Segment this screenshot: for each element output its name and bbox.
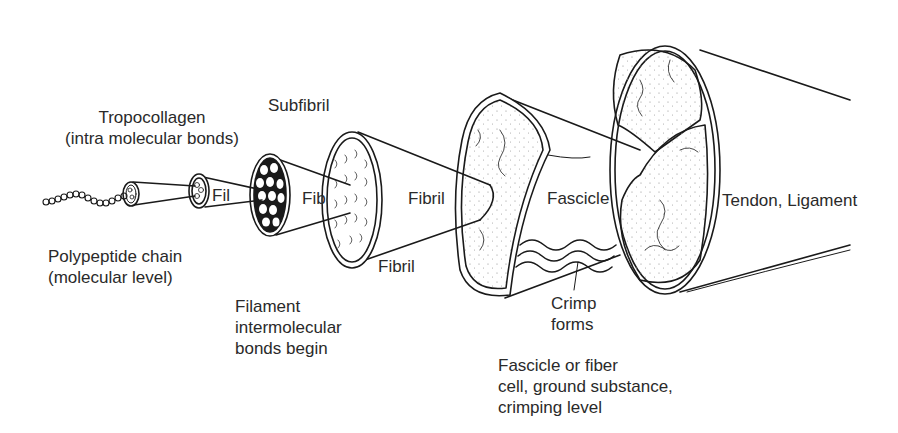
label-line: Filament: [235, 296, 342, 317]
polypeptide-chain-label: Polypeptide chain (molecular level): [48, 246, 182, 288]
tendon-shape: [610, 46, 850, 294]
label-line: Polypeptide chain: [48, 246, 182, 267]
collagen-hierarchy-diagram: [0, 0, 898, 433]
crimp-forms-label: Crimp forms: [551, 293, 596, 335]
label-line: intermolecular: [235, 317, 342, 338]
label-line: (molecular level): [48, 267, 182, 288]
label-line: crimping level: [498, 397, 673, 418]
label-line: Subfibril: [268, 95, 329, 116]
label-line: (intra molecular bonds): [52, 128, 252, 149]
label-line: bonds begin: [235, 338, 342, 359]
tropocollagen-shape: [123, 182, 195, 206]
fib-inline-label: Fib: [302, 188, 326, 209]
fascicle-label: Fascicle or fiber cell, ground substance…: [498, 355, 673, 418]
tropocollagen-label: Tropocollagen (intra molecular bonds): [52, 107, 252, 149]
label-line: Fibril: [378, 256, 415, 277]
label-line: Tropocollagen: [52, 107, 252, 128]
filament-label: Filament intermolecular bonds begin: [235, 296, 342, 359]
label-line: cell, ground substance,: [498, 376, 673, 397]
label-line: Fascicle or fiber: [498, 355, 673, 376]
subfibril-label: Subfibril: [268, 95, 329, 116]
polypeptide-chain-shape: [43, 191, 127, 206]
label-line: forms: [551, 314, 596, 335]
label-line: Crimp: [551, 293, 596, 314]
fascicle-inline-label: Fascicle: [547, 188, 609, 209]
fil-inline-label: Fil: [212, 185, 230, 206]
fibril-inline-label: Fibril: [408, 188, 445, 209]
tendon-ligament-label: Tendon, Ligament: [722, 190, 857, 211]
fibril-label: Fibril: [378, 256, 415, 277]
